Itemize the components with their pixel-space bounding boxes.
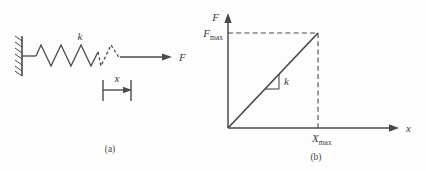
y-max-subscript: max [210, 33, 223, 42]
y-axis-label: F [211, 11, 219, 23]
figure-canvas: k F x (a) [0, 0, 426, 171]
panel-a-spring-system: k F x (a) [15, 30, 186, 155]
wall-hatching-icon [15, 36, 22, 76]
y-axis-arrowhead-icon [224, 13, 231, 23]
panel-b-force-displacement-chart: k F x Fmax Xmax (b) [202, 11, 411, 163]
spring-coil-dashed [98, 45, 120, 66]
data-line-force-vs-displacement [228, 33, 318, 128]
physics-figure: k F x (a) [0, 0, 426, 171]
panel-a-caption: (a) [105, 144, 116, 155]
x-max-subscript: max [319, 138, 332, 147]
force-label: F [178, 51, 186, 63]
force-arrowhead-icon [162, 53, 172, 60]
slope-label: k [284, 75, 290, 87]
x-axis-label: x [405, 122, 411, 134]
spring-coil-solid [36, 45, 98, 66]
panel-b-caption: (b) [310, 152, 321, 163]
displacement-label: x [114, 72, 120, 84]
spring-constant-label: k [78, 30, 84, 42]
y-max-tick-label: Fmax [202, 27, 223, 42]
x-max-tick-label: Xmax [311, 132, 332, 147]
x-axis-arrowhead-icon [389, 124, 399, 131]
